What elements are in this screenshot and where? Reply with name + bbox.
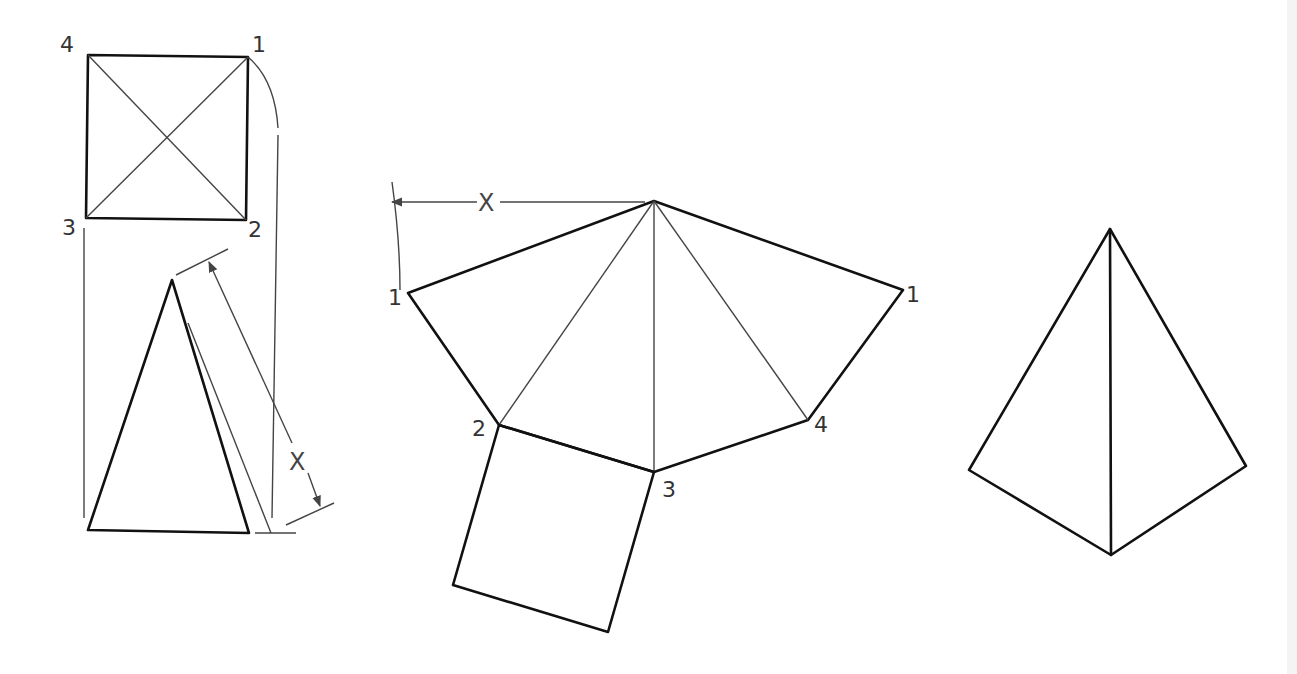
label-4: 4 — [60, 32, 74, 57]
label-2: 2 — [248, 217, 262, 242]
top-view: 4 1 3 2 — [60, 32, 278, 242]
assembled-pyramid — [969, 229, 1246, 555]
fold-line-4 — [654, 201, 808, 420]
extension-line-bottom — [286, 503, 334, 525]
label-right-1: 1 — [906, 282, 920, 307]
drawing-svg: 4 1 3 2 X X — [0, 0, 1297, 674]
swing-arc — [248, 57, 278, 128]
pattern: X 1 1 2 3 4 — [388, 182, 920, 632]
base-square — [453, 425, 654, 632]
radius-arc — [392, 182, 400, 290]
label-4: 4 — [814, 412, 828, 437]
extension-line-top — [176, 249, 228, 275]
projection-lines — [84, 135, 278, 518]
dimension-label-x: X — [289, 448, 305, 476]
label-1: 1 — [252, 32, 266, 57]
dimension-line-upper — [209, 262, 292, 443]
projection-line-right — [272, 135, 278, 518]
label-2: 2 — [472, 416, 486, 441]
diagonal-1-3 — [86, 57, 248, 218]
pyramid-outline — [969, 229, 1246, 555]
true-length-line — [188, 323, 271, 533]
front-view-triangle — [88, 280, 249, 533]
front-view: X — [88, 249, 334, 533]
dimension-line-lower — [308, 473, 320, 506]
pyramid-front-edge — [1110, 229, 1111, 555]
fold-line-2 — [499, 201, 654, 425]
drawing-canvas: 4 1 3 2 X X — [0, 0, 1297, 674]
label-3: 3 — [662, 477, 676, 502]
label-3: 3 — [62, 215, 76, 240]
label-left-1: 1 — [388, 285, 402, 310]
radius-label-x: X — [478, 189, 494, 217]
